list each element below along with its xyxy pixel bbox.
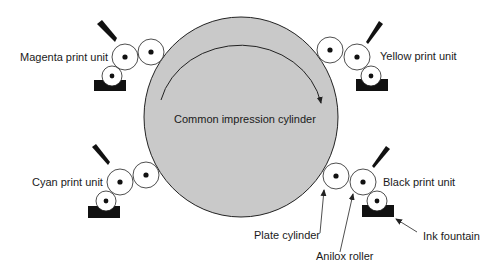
doctor-blade-icon (366, 21, 383, 44)
doctor-blade-icon (372, 146, 390, 168)
cyan-print-unit: Cyan print unit (32, 144, 159, 218)
black-label: Black print unit (383, 176, 455, 188)
doctor-blade-icon (97, 20, 117, 42)
anilox-roller-arrow (340, 194, 353, 252)
ink-fountain-label: Ink fountain (423, 230, 480, 242)
ink-fountain-arrow (396, 219, 417, 232)
flexo-press-diagram: Common impression cylinder Magenta print… (0, 0, 501, 273)
black-print-unit: Black print unit (323, 146, 455, 217)
yellow-print-unit: Yellow print unit (317, 21, 457, 91)
magenta-label: Magenta print unit (20, 51, 108, 63)
cylinder-label: Common impression cylinder (174, 113, 316, 125)
doctor-blade-icon (92, 144, 110, 165)
magenta-print-unit: Magenta print unit (20, 20, 164, 91)
cyan-label: Cyan print unit (32, 176, 103, 188)
plate-cylinder-arrow (320, 190, 324, 233)
plate-cylinder-label: Plate cylinder (254, 229, 320, 241)
yellow-label: Yellow print unit (380, 50, 457, 62)
anilox-roller-label: Anilox roller (316, 250, 374, 262)
common-impression-cylinder: Common impression cylinder (144, 17, 338, 217)
